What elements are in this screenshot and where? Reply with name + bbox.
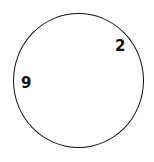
clock-number-9: 9 <box>21 76 31 91</box>
clock-face-circle <box>13 13 144 148</box>
clock-number-2: 2 <box>115 39 125 54</box>
clock-drawing: 2 9 <box>0 0 154 162</box>
